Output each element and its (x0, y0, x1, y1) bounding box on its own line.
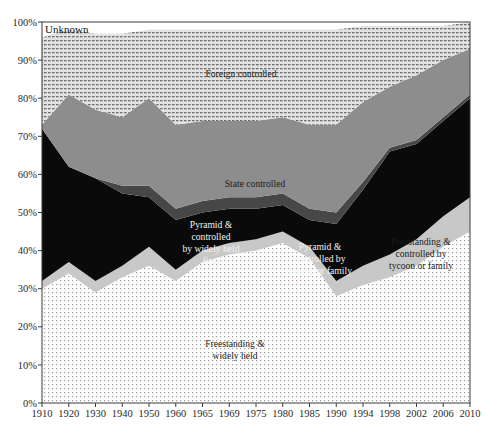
x-axis-tick-label: 2002 (406, 408, 427, 419)
x-axis: 1910192019301940195019601965196919751980… (32, 403, 481, 419)
x-axis-tick-label: 1920 (58, 408, 79, 419)
x-axis-tick-label: 1975 (246, 408, 267, 419)
x-axis-tick-label: 1980 (272, 408, 293, 419)
x-axis-tick-label: 1965 (192, 408, 213, 419)
y-axis-tick-label: 90% (18, 55, 38, 66)
y-axis-tick-label: 60% (18, 169, 38, 180)
x-axis-tick-label: 1910 (32, 408, 53, 419)
x-axis-tick-label: 2010 (460, 408, 481, 419)
y-axis-tick-label: 70% (18, 131, 38, 142)
area-series-group (42, 22, 470, 403)
y-axis: 0%10%20%30%40%50%60%70%80%90%100% (13, 17, 43, 409)
x-axis-tick-label: 1985 (299, 408, 320, 419)
x-axis-tick-label: 1994 (353, 408, 375, 419)
stacked-area-chart: 0%10%20%30%40%50%60%70%80%90%100% 191019… (0, 0, 487, 433)
y-axis-tick-label: 80% (18, 93, 38, 104)
x-axis-tick-label: 1960 (165, 408, 186, 419)
y-axis-tick-label: 100% (13, 17, 38, 28)
y-axis-tick-label: 10% (18, 360, 38, 371)
x-axis-tick-label: 1950 (139, 408, 160, 419)
x-axis-tick-label: 2006 (433, 408, 454, 419)
y-axis-tick-label: 50% (18, 207, 38, 218)
y-axis-tick-label: 0% (23, 398, 37, 409)
y-axis-tick-label: 20% (18, 321, 38, 332)
x-axis-tick-label: 1930 (85, 408, 106, 419)
x-axis-tick-label: 1990 (326, 408, 347, 419)
y-axis-tick-label: 30% (18, 283, 38, 294)
x-axis-tick-label: 1969 (219, 408, 240, 419)
x-axis-tick-label: 1940 (112, 408, 133, 419)
chart-canvas: 0%10%20%30%40%50%60%70%80%90%100% 191019… (0, 0, 487, 433)
x-axis-tick-label: 1998 (379, 408, 400, 419)
y-axis-tick-label: 40% (18, 245, 38, 256)
